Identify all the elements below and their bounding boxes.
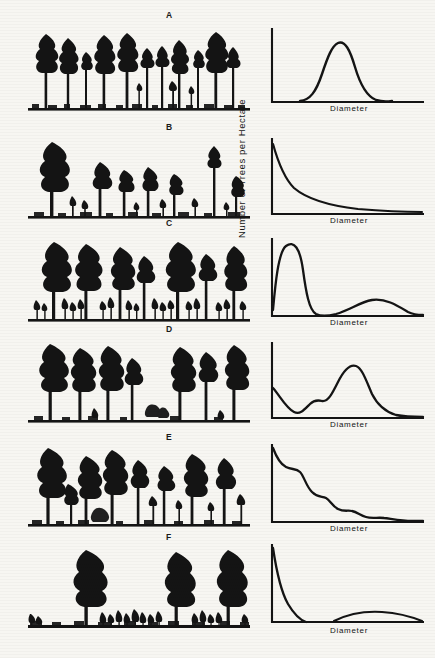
x-axis-label-d: Diameter — [330, 420, 368, 429]
panel-letter-b: B — [166, 122, 173, 132]
x-axis-label-b: Diameter — [330, 216, 368, 225]
panel-f: F — [0, 534, 435, 644]
x-axis-label-e: Diameter — [330, 524, 368, 533]
panel-a: A — [0, 8, 435, 120]
stand-illustration-e — [28, 444, 250, 536]
stand-illustration-c — [28, 238, 250, 332]
panel-letter-e: E — [166, 432, 172, 442]
panel-b: B — [0, 120, 435, 230]
panel-c: C — [0, 230, 435, 338]
panel-letter-a: A — [166, 10, 173, 20]
panel-d: D — [0, 330, 435, 438]
stand-illustration-d — [28, 338, 250, 432]
x-axis-label-f: Diameter — [330, 626, 368, 635]
x-axis-label-c: Diameter — [330, 318, 368, 327]
x-axis-label-a: Diameter — [330, 104, 368, 113]
panel-letter-c: C — [166, 218, 173, 228]
stand-illustration-a — [28, 26, 250, 120]
figure-root: A — [0, 0, 435, 658]
y-axis-label: Number of Trees per Hectare — [236, 38, 247, 238]
stand-illustration-b — [28, 136, 250, 228]
stand-illustration-f — [28, 544, 250, 636]
panel-letter-d: D — [166, 324, 173, 334]
panel-letter-f: F — [166, 532, 172, 542]
panel-e: E — [0, 434, 435, 540]
